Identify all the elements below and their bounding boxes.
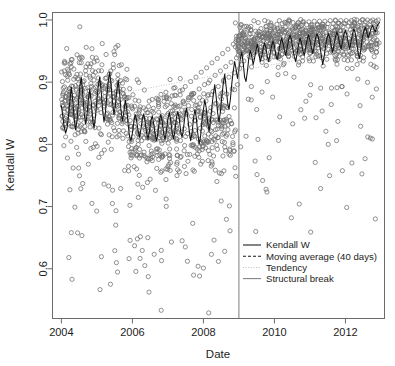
- legend-label-4: Structural break: [266, 273, 334, 284]
- legend-label-2: Moving average (40 days): [266, 251, 377, 262]
- y-tick-label: 0.6: [37, 261, 49, 276]
- x-tick-label: 2006: [120, 326, 144, 338]
- y-tick-label: 0.7: [37, 199, 49, 214]
- x-tick-label: 2008: [191, 326, 215, 338]
- kendall-w-scatter-chart: 0.60.70.80.91.0 20042006200820102012 Ken…: [0, 0, 395, 366]
- legend-label-1: Kendall W: [266, 239, 311, 250]
- x-axis-title: Date: [206, 348, 230, 360]
- chart-figure: 0.60.70.80.91.0 20042006200820102012 Ken…: [0, 0, 395, 366]
- y-axis-title: Kendall W: [4, 139, 16, 192]
- y-tick-label: 0.9: [37, 75, 49, 90]
- x-tick-label: 2010: [262, 326, 286, 338]
- chart-background: [0, 0, 395, 366]
- x-tick-label: 2012: [333, 326, 357, 338]
- y-tick-label: 0.8: [37, 137, 49, 152]
- x-tick-label: 2004: [49, 326, 73, 338]
- y-tick-label: 1.0: [37, 12, 49, 27]
- legend-label-3: Tendency: [266, 262, 307, 273]
